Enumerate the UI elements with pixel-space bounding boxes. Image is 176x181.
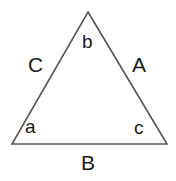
angle-label-bottom-left: a bbox=[25, 117, 36, 136]
angle-label-apex: b bbox=[82, 32, 93, 51]
side-label-right: A bbox=[132, 54, 146, 75]
angle-label-bottom-right: c bbox=[134, 118, 144, 137]
side-label-left: C bbox=[28, 54, 43, 75]
triangle-diagram: C A B b a c bbox=[0, 0, 176, 181]
side-label-bottom: B bbox=[81, 152, 95, 173]
